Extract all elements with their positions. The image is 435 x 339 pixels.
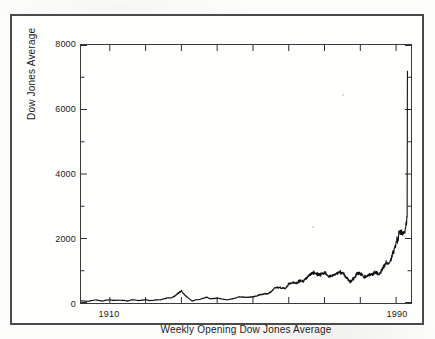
y-tick-label: 8000 bbox=[34, 40, 76, 49]
x-tick-label: 1990 bbox=[387, 309, 408, 319]
scan-speck bbox=[342, 94, 344, 96]
x-ticks bbox=[110, 45, 396, 303]
figure-border: Dow Jones Average 8000 6000 4000 2000 0 bbox=[10, 14, 424, 325]
scan-margin-artifact bbox=[320, 328, 323, 337]
x-axis-title: Weekly Opening Dow Jones Average bbox=[80, 324, 412, 335]
y-tick-label: 6000 bbox=[34, 105, 76, 114]
chart-svg bbox=[81, 45, 411, 303]
y-axis-tick-labels: 8000 6000 4000 2000 0 bbox=[30, 44, 76, 304]
plot-frame bbox=[80, 44, 412, 304]
scan-speck bbox=[312, 226, 314, 228]
plot-area bbox=[81, 45, 411, 303]
y-tick-label: 0 bbox=[34, 300, 76, 309]
y-minor-ticks bbox=[81, 77, 411, 271]
y-major-ticks bbox=[81, 45, 411, 302]
data-series-line bbox=[81, 71, 407, 302]
x-tick-label: 1910 bbox=[99, 309, 120, 319]
y-tick-label: 2000 bbox=[34, 235, 76, 244]
x-axis-tick-labels: 1910 1990 bbox=[80, 309, 412, 323]
y-tick-label: 4000 bbox=[34, 170, 76, 179]
figure-page: Dow Jones Average 8000 6000 4000 2000 0 bbox=[0, 0, 435, 339]
